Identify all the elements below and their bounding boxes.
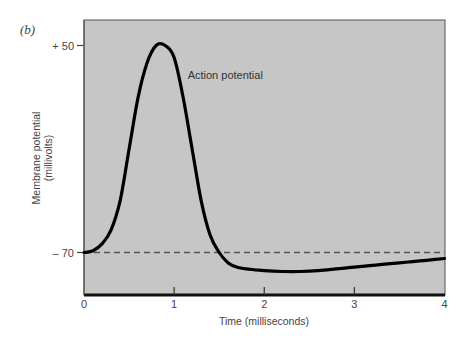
y-tick-label: + 50	[52, 40, 74, 52]
y-axis-ticks: + 50– 70	[52, 40, 83, 259]
action-potential-chart: + 50– 70 01234 Action potential Time (mi…	[0, 0, 467, 339]
x-tick-label: 1	[171, 298, 177, 310]
y-axis-title-line-1: Membrane potential	[30, 112, 42, 205]
y-axis-title: Membrane potential (millivolts)	[30, 112, 54, 205]
x-tick-label: 4	[441, 298, 447, 310]
x-tick-label: 0	[81, 298, 87, 310]
y-tick-label: – 70	[53, 247, 74, 259]
x-tick-label: 3	[351, 298, 357, 310]
x-axis-title: Time (milliseconds)	[219, 315, 309, 327]
action-potential-annotation: Action potential	[188, 69, 263, 81]
y-axis-title-line-2: (millivolts)	[42, 135, 54, 182]
plot-area	[84, 20, 445, 295]
x-tick-label: 2	[261, 298, 267, 310]
